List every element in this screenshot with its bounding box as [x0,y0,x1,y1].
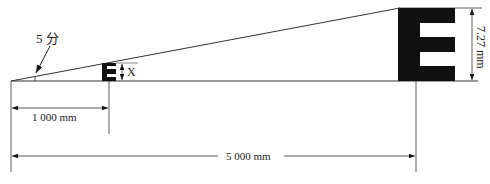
visual-angle-diagram: 5 分 X 7.27 mm 1 000 mm 5 000 mm [0,0,490,184]
large-optotype-e [398,8,455,81]
angle-label: 5 分 [36,31,59,46]
small-optotype-e [102,63,116,81]
near-distance-label: 1 000 mm [32,111,77,123]
small-height-label: X [127,65,136,79]
far-distance-label: 5 000 mm [226,150,271,162]
large-height-label: 7.27 mm [474,26,488,69]
angle-pointer-arrow [36,46,50,73]
sight-line [11,8,400,81]
